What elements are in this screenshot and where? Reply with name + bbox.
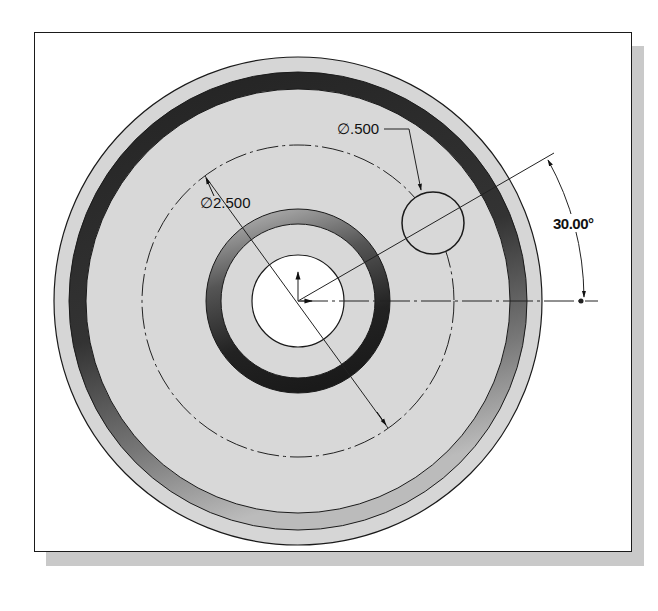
bolt-circle-diameter-label: ∅2.500 — [200, 194, 251, 211]
angle-endpoint — [579, 299, 584, 304]
angle-label: 30.00° — [553, 215, 594, 232]
angle-dimension: 30.00° — [548, 160, 622, 297]
cad-drawing: ∅2.500 ∅.500 30.00° — [0, 0, 658, 611]
hole-diameter-label: ∅.500 — [337, 120, 379, 137]
